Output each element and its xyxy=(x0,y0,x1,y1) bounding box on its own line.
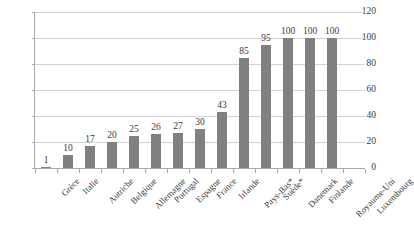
x-axis-tick-mark xyxy=(101,169,102,173)
bar[interactable] xyxy=(239,58,249,169)
x-axis-tick-mark xyxy=(343,169,344,173)
bar-slot: 25 xyxy=(123,12,145,168)
x-axis-tick-mark xyxy=(233,169,234,173)
x-axis-tick-mark xyxy=(277,169,278,173)
x-axis-tick-mark xyxy=(189,169,190,173)
bar-slot: 100 xyxy=(321,12,343,168)
x-axis-category-label: Irlande xyxy=(236,176,261,201)
bar[interactable] xyxy=(107,142,117,168)
bar-slot xyxy=(343,12,365,168)
bar[interactable] xyxy=(173,133,183,168)
x-axis-tick-mark xyxy=(35,169,36,173)
bar-slot: 10 xyxy=(57,12,79,168)
bar[interactable] xyxy=(85,146,95,168)
bar-slot: 17 xyxy=(79,12,101,168)
x-axis-tick-mark xyxy=(79,169,80,173)
plot-area: 110172025262730438595100100100 xyxy=(35,12,365,168)
x-axis-tick-mark xyxy=(299,169,300,173)
bar-slot: 20 xyxy=(101,12,123,168)
cropped-title-remnant: · · · · xyxy=(0,0,376,2)
bar[interactable] xyxy=(283,38,293,168)
x-axis-tick-mark xyxy=(365,169,366,173)
x-axis-tick-mark xyxy=(57,169,58,173)
bar[interactable] xyxy=(63,155,73,168)
x-axis-tick-mark xyxy=(145,169,146,173)
bar-slot: 27 xyxy=(167,12,189,168)
bar-slot: 30 xyxy=(189,12,211,168)
x-axis-tick-mark xyxy=(255,169,256,173)
bar[interactable] xyxy=(41,167,51,168)
x-axis-tick-mark xyxy=(123,169,124,173)
x-axis-tick-mark xyxy=(321,169,322,173)
bar[interactable] xyxy=(305,38,315,168)
bar-slot: 43 xyxy=(211,12,233,168)
x-axis-category-label: Italie xyxy=(80,176,100,196)
bar[interactable] xyxy=(151,134,161,168)
bar[interactable] xyxy=(217,112,227,168)
x-axis-tick-mark xyxy=(211,169,212,173)
bar-slot: 26 xyxy=(145,12,167,168)
bar[interactable] xyxy=(195,129,205,168)
bar[interactable] xyxy=(129,136,139,169)
x-axis-category-label: Grèce xyxy=(59,176,81,198)
bar[interactable] xyxy=(261,45,271,169)
bar[interactable] xyxy=(327,38,337,168)
gridline xyxy=(35,168,365,169)
x-axis-tick-mark xyxy=(167,169,168,173)
